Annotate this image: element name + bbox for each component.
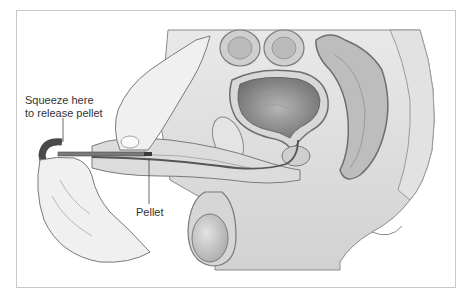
squeeze-label: Squeeze here to release pellet xyxy=(25,94,103,120)
squeeze-label-line1: Squeeze here xyxy=(25,94,103,107)
anatomy-illustration xyxy=(0,0,474,296)
squeeze-label-line2: to release pellet xyxy=(25,107,103,120)
scrotum xyxy=(188,192,236,266)
testis xyxy=(192,214,228,262)
pellet-marker xyxy=(144,152,152,156)
pellet-label: Pellet xyxy=(136,206,164,219)
